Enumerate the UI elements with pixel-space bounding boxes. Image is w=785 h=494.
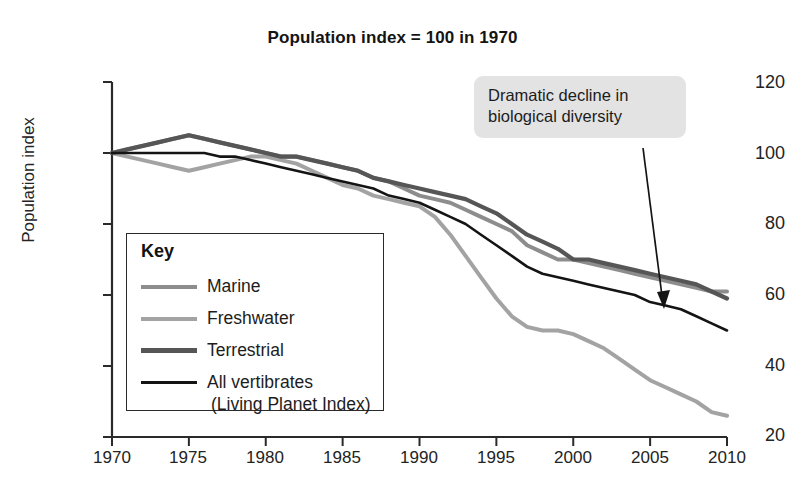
- legend-item-all-vertibrates[interactable]: All vertibrates: [141, 372, 313, 393]
- legend-item-marine[interactable]: Marine: [141, 276, 261, 297]
- plot-area: [0, 0, 785, 494]
- legend-item-freshwater[interactable]: Freshwater: [141, 308, 295, 329]
- legend-key-box: Key Marine Freshwater Terrestrial All ve…: [126, 233, 384, 411]
- legend-swatch-freshwater: [141, 317, 197, 321]
- legend-label-marine: Marine: [207, 276, 261, 297]
- chart-root: Population index = 100 in 1970 Populatio…: [0, 0, 785, 494]
- legend-swatch-terrestrial: [141, 348, 197, 353]
- callout-line-2: biological diversity: [488, 106, 674, 127]
- x-axis-ticks: [112, 437, 727, 446]
- legend-swatch-all-vertibrates: [141, 381, 197, 384]
- legend-label-all-vertibrates: All vertibrates: [207, 372, 313, 393]
- callout-arrow: [643, 148, 670, 309]
- y-axis-ticks: [103, 82, 112, 437]
- legend-title: Key: [141, 241, 174, 262]
- legend-swatch-marine: [141, 285, 197, 289]
- callout-line-1: Dramatic decline in: [488, 85, 674, 106]
- legend-label-all-vertibrates-sub: (Living Planet Index): [211, 394, 371, 415]
- legend-label-freshwater: Freshwater: [207, 308, 295, 329]
- legend-label-terrestrial: Terrestrial: [207, 340, 284, 361]
- legend-item-terrestrial[interactable]: Terrestrial: [141, 340, 284, 361]
- dramatic-decline-callout: Dramatic decline in biological diversity: [474, 76, 686, 138]
